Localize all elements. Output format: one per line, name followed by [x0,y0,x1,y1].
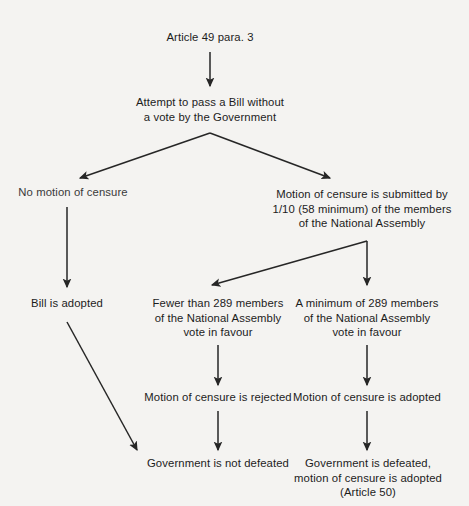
node-motion-of-censure-adopted: Motion of censure is adopted [277,390,457,405]
connector-attempt-to-no-motion [80,133,210,178]
connector-motion-to-fewer [212,241,367,285]
flowchart-connectors [0,0,469,506]
node-no-motion-of-censure: No motion of censure [3,185,143,200]
connector-bill-adopted-to-gov-not-defeated [67,322,137,450]
node-bill-is-adopted: Bill is adopted [7,296,127,311]
node-article-49: Article 49 para. 3 [120,30,300,45]
node-minimum-of-289: A minimum of 289 members of the National… [279,296,455,340]
node-attempt-to-pass-bill: Attempt to pass a Bill without a vote by… [110,95,310,124]
connector-attempt-to-motion-submitted [210,133,330,178]
flowchart-diagram: Article 49 para. 3 Attempt to pass a Bil… [0,0,469,506]
node-government-not-defeated: Government is not defeated [128,456,308,471]
node-government-defeated: Government is defeated, motion of censur… [287,456,449,500]
node-motion-of-censure-submitted: Motion of censure is submitted by 1/10 (… [255,187,469,231]
